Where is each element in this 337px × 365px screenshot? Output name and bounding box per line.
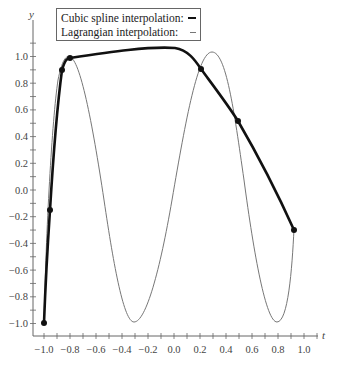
thick-line-swatch-icon bbox=[188, 17, 196, 19]
y-tick-label: 0.2 bbox=[15, 158, 28, 169]
x-tick-label: −0.4 bbox=[112, 344, 132, 355]
knot-point bbox=[198, 66, 204, 72]
knot-point bbox=[41, 320, 47, 326]
legend-item-lagrangian: Lagrangian interpolation: bbox=[61, 25, 196, 39]
x-axis-label: t bbox=[322, 329, 326, 341]
y-tick-label: 0.8 bbox=[15, 78, 28, 89]
x-tick-label: 0.2 bbox=[193, 344, 206, 355]
x-tick-label: 0.6 bbox=[245, 344, 258, 355]
legend-item-cubic-spline: Cubic spline interpolation: bbox=[61, 11, 196, 25]
cubic-spline-curve bbox=[44, 48, 294, 323]
y-tick-label: 0.6 bbox=[15, 104, 28, 115]
knot-point bbox=[235, 118, 241, 124]
y-tick-label: −0.6 bbox=[9, 265, 28, 276]
x-tick-label: −0.6 bbox=[86, 344, 105, 355]
x-tick-label: 0.4 bbox=[219, 344, 233, 355]
y-tick-label: −0.8 bbox=[9, 291, 28, 302]
chart-canvas: −1.0−0.8−0.6−0.4−0.20.00.20.40.60.81.0 −… bbox=[0, 0, 337, 365]
legend-label: Lagrangian interpolation: bbox=[61, 25, 178, 39]
knot-point bbox=[67, 55, 73, 61]
y-axis: −1.0−0.8−0.6−0.4−0.20.00.20.40.60.81.0 bbox=[9, 20, 36, 336]
x-tick-label: −1.0 bbox=[34, 344, 53, 355]
legend: Cubic spline interpolation: Lagrangian i… bbox=[56, 8, 201, 41]
lagrangian-curve bbox=[44, 52, 294, 323]
y-axis-label: y bbox=[28, 8, 34, 20]
y-tick-label: −0.4 bbox=[9, 238, 29, 249]
knot-point bbox=[291, 227, 297, 233]
x-tick-label: 0.8 bbox=[271, 344, 284, 355]
legend-label: Cubic spline interpolation: bbox=[61, 11, 184, 25]
x-tick-label: 1.0 bbox=[297, 344, 310, 355]
thin-line-swatch-icon bbox=[190, 32, 196, 33]
x-tick-label: −0.8 bbox=[60, 344, 79, 355]
knot-point bbox=[47, 207, 53, 213]
knot-point bbox=[59, 67, 65, 73]
x-tick-label: 0.0 bbox=[167, 344, 180, 355]
x-axis: −1.0−0.8−0.6−0.4−0.20.00.20.40.60.81.0 bbox=[33, 333, 318, 355]
y-tick-label: 1.0 bbox=[15, 51, 28, 62]
y-tick-label: −1.0 bbox=[9, 318, 28, 329]
y-tick-label: −0.2 bbox=[9, 211, 28, 222]
x-tick-label: −0.2 bbox=[138, 344, 157, 355]
y-tick-label: 0.4 bbox=[15, 131, 29, 142]
spline-knots bbox=[41, 55, 297, 326]
y-tick-label: 0.0 bbox=[15, 185, 28, 196]
